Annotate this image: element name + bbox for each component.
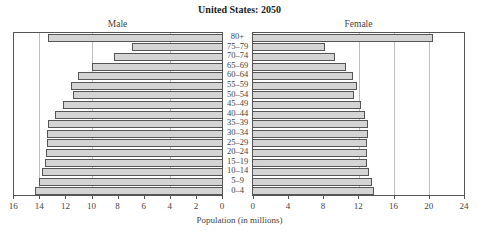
male-bar (48, 34, 223, 42)
tick-label: 4 (160, 201, 180, 211)
chart-title: United States: 2050 (0, 4, 479, 15)
tick-label: 12 (55, 201, 75, 211)
tick-mark (394, 196, 395, 199)
tick-mark (65, 196, 66, 199)
male-bar (39, 178, 223, 186)
tick-label: 14 (29, 201, 49, 211)
tick-mark (464, 196, 465, 199)
female-bar (252, 43, 325, 51)
tick-mark (358, 196, 359, 199)
female-bar (252, 34, 433, 42)
male-bar (71, 82, 223, 90)
female-bar (252, 53, 335, 61)
x-axis-label: Population (in millions) (0, 215, 479, 225)
tick-label: 0 (243, 201, 263, 211)
male-bar (132, 43, 223, 51)
age-group-label: 0–4 (222, 186, 253, 196)
female-label: Female (253, 19, 464, 29)
male-bar (63, 101, 223, 109)
tick-mark (39, 196, 40, 199)
female-bar (252, 130, 368, 138)
female-bar (252, 91, 354, 99)
male-bar (55, 111, 223, 119)
male-label: Male (13, 19, 222, 29)
male-bar (45, 159, 223, 167)
male-bar (78, 72, 223, 80)
male-bar (48, 120, 223, 128)
male-bar (46, 149, 223, 157)
tick-label: 0 (212, 201, 232, 211)
tick-label: 24 (454, 201, 474, 211)
female-bar (252, 111, 365, 119)
tick-mark (288, 196, 289, 199)
tick-mark (196, 196, 197, 199)
gridline (394, 33, 395, 195)
tick-mark (253, 196, 254, 199)
tick-label: 8 (108, 201, 128, 211)
female-bar (252, 63, 346, 71)
female-bar (252, 168, 369, 176)
tick-label: 12 (348, 201, 368, 211)
male-bar (42, 168, 223, 176)
male-bar (92, 63, 224, 71)
tick-mark (92, 196, 93, 199)
tick-mark (13, 196, 14, 199)
male-bar (35, 187, 223, 195)
female-bar (252, 120, 368, 128)
tick-mark (170, 196, 171, 199)
gridline (39, 33, 40, 195)
female-bar (252, 149, 367, 157)
male-panel (13, 32, 223, 196)
male-bar (73, 91, 223, 99)
female-bar (252, 101, 361, 109)
tick-label: 2 (186, 201, 206, 211)
male-bar (47, 130, 223, 138)
tick-label: 20 (419, 201, 439, 211)
female-bar (252, 72, 353, 80)
male-bar (47, 139, 223, 147)
tick-label: 4 (278, 201, 298, 211)
tick-label: 6 (134, 201, 154, 211)
female-panel (252, 32, 465, 196)
tick-mark (222, 196, 223, 199)
tick-mark (323, 196, 324, 199)
tick-mark (429, 196, 430, 199)
tick-label: 10 (82, 201, 102, 211)
tick-mark (144, 196, 145, 199)
female-bar (252, 159, 367, 167)
female-bar (252, 139, 367, 147)
tick-label: 16 (3, 201, 23, 211)
female-bar (252, 178, 372, 186)
male-bar (114, 53, 223, 61)
tick-label: 16 (384, 201, 404, 211)
female-bar (252, 187, 374, 195)
gridline (429, 33, 430, 195)
tick-label: 8 (313, 201, 333, 211)
tick-mark (118, 196, 119, 199)
female-bar (252, 82, 357, 90)
